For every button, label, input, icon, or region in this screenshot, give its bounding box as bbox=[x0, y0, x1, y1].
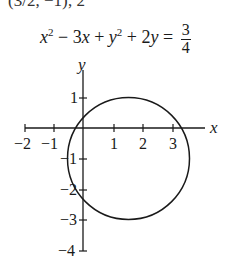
x-tick-label: 2 bbox=[139, 135, 147, 152]
x-tick-label: −2 bbox=[14, 135, 31, 152]
y-tick-label: −4 bbox=[58, 242, 75, 259]
y-axis-label: y bbox=[76, 55, 86, 74]
x-tick-label: −1 bbox=[41, 135, 58, 152]
x-tick-label: 3 bbox=[169, 135, 177, 152]
graph: x y −2 −1 1 2 3 1 −1 −2 −3 −4 bbox=[0, 0, 236, 277]
y-tick-label: −1 bbox=[60, 150, 77, 167]
y-tick-label: −2 bbox=[60, 181, 77, 198]
x-tick-label: 1 bbox=[110, 135, 118, 152]
y-tick-label: 1 bbox=[70, 89, 78, 106]
y-tick-label: −3 bbox=[60, 211, 77, 228]
x-axis-label: x bbox=[209, 118, 218, 137]
